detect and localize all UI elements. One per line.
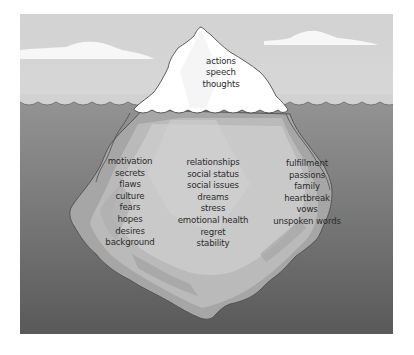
underwater-column-left: motivation secrets flaws culture fears h… xyxy=(90,156,170,249)
underwater-label: dreams xyxy=(168,192,258,204)
underwater-label: stability xyxy=(168,238,258,250)
underwater-label: passions xyxy=(258,170,356,182)
underwater-label: social status xyxy=(168,169,258,181)
underwater-column-middle: relationships social status social issue… xyxy=(168,157,258,250)
underwater-label: unspoken words xyxy=(258,216,356,228)
underwater-label: family xyxy=(258,181,356,193)
underwater-label: motivation xyxy=(90,156,170,168)
underwater-label: desires xyxy=(90,226,170,238)
iceberg-diagram: actions speech thoughts motivation secre… xyxy=(20,14,393,334)
tip-labels: actions speech thoughts xyxy=(180,56,262,90)
underwater-label: fears xyxy=(90,202,170,214)
underwater-label: vows xyxy=(258,204,356,216)
tip-label: thoughts xyxy=(180,79,262,90)
underwater-label: background xyxy=(90,237,170,249)
underwater-label: regret xyxy=(168,227,258,239)
underwater-column-right: fulfillment passions family heartbreak v… xyxy=(258,158,356,228)
underwater-label: relationships xyxy=(168,157,258,169)
underwater-label: hopes xyxy=(90,214,170,226)
underwater-label: stress xyxy=(168,203,258,215)
underwater-label: flaws xyxy=(90,179,170,191)
underwater-label: secrets xyxy=(90,168,170,180)
underwater-label: social issues xyxy=(168,180,258,192)
tip-label: actions xyxy=(180,56,262,67)
underwater-label: heartbreak xyxy=(258,193,356,205)
underwater-label: emotional health xyxy=(168,215,258,227)
tip-label: speech xyxy=(180,67,262,78)
underwater-label: fulfillment xyxy=(258,158,356,170)
underwater-label: culture xyxy=(90,191,170,203)
